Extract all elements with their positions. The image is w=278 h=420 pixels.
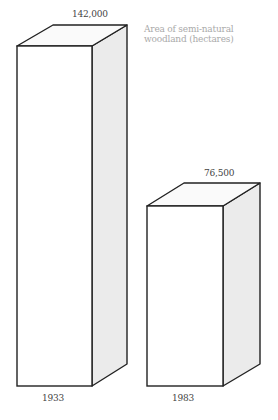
category-label-1983: 1983 — [172, 393, 194, 403]
category-label-1933: 1933 — [42, 393, 64, 403]
bar-1983 — [147, 183, 260, 386]
value-label-1933: 142,000 — [72, 9, 108, 19]
value-label-1983: 76,500 — [204, 168, 234, 178]
legend-line-1: Area of semi-natural — [144, 24, 234, 34]
chart-canvas — [0, 0, 278, 420]
bar-1933 — [17, 25, 127, 386]
legend-line-2: woodland (hectares) — [144, 34, 234, 44]
chart-legend: Area of semi-natural woodland (hectares) — [144, 24, 234, 44]
